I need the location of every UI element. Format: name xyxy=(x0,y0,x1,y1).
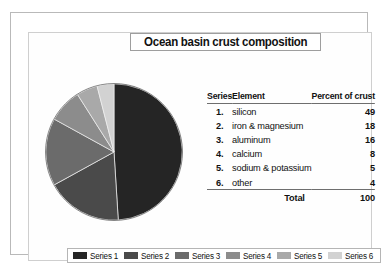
table-total-row: Total 100 xyxy=(207,190,375,205)
row-percent: 5 xyxy=(312,161,375,175)
legend-item[interactable]: Series 4 xyxy=(226,251,273,261)
column-header-series: Series xyxy=(207,91,232,104)
table-row: 3.aluminum16 xyxy=(207,132,375,146)
pie-chart xyxy=(45,83,183,221)
row-percent: 16 xyxy=(312,132,375,146)
data-table: Series Element Percent of crust 1.silico… xyxy=(207,91,357,205)
legend-item[interactable]: Series 2 xyxy=(124,251,171,261)
row-element: calcium xyxy=(232,147,311,161)
legend-label: Series 1 xyxy=(90,251,118,261)
legend-label: Series 5 xyxy=(294,251,322,261)
row-index: 5. xyxy=(207,161,232,175)
legend-swatch-icon xyxy=(328,252,342,259)
row-percent: 8 xyxy=(312,147,375,161)
table-row: 5.sodium & potassium5 xyxy=(207,161,375,175)
table-header-row: Series Element Percent of crust xyxy=(207,91,375,104)
legend-item[interactable]: Series 1 xyxy=(73,251,120,261)
chart-legend: Series 1Series 2Series 3Series 4Series 5… xyxy=(67,248,381,263)
row-index: 3. xyxy=(207,132,232,146)
pie-chart-svg xyxy=(45,83,183,221)
row-element: silicon xyxy=(232,104,311,119)
row-index: 2. xyxy=(207,118,232,132)
row-percent: 4 xyxy=(312,175,375,190)
legend-swatch-icon xyxy=(277,252,291,259)
total-value: 100 xyxy=(312,190,375,205)
page-frame: Ocean basin crust composition Series Ele… xyxy=(10,12,368,255)
table-row: 2.iron & magnesium18 xyxy=(207,118,375,132)
row-index: 1. xyxy=(207,104,232,119)
row-element: other xyxy=(232,175,311,190)
table-row: 1.silicon49 xyxy=(207,104,375,119)
row-percent: 18 xyxy=(312,118,375,132)
row-element: aluminum xyxy=(232,132,311,146)
row-percent: 49 xyxy=(312,104,375,119)
legend-swatch-icon xyxy=(226,252,240,259)
table-row: 6.other4 xyxy=(207,175,375,190)
page-title: Ocean basin crust composition xyxy=(144,35,307,49)
row-element: sodium & potassium xyxy=(232,161,311,175)
legend-item[interactable]: Series 5 xyxy=(277,251,324,261)
row-element: iron & magnesium xyxy=(232,118,311,132)
legend-swatch-icon xyxy=(175,252,189,259)
legend-label: Series 6 xyxy=(345,251,373,261)
legend-item[interactable]: Series 6 xyxy=(328,251,375,261)
row-index: 4. xyxy=(207,147,232,161)
column-header-element: Element xyxy=(232,91,311,104)
total-spacer xyxy=(207,190,232,205)
pie-slice[interactable] xyxy=(114,84,182,220)
chart-title-box: Ocean basin crust composition xyxy=(130,33,321,51)
legend-label: Series 3 xyxy=(192,251,220,261)
legend-item[interactable]: Series 3 xyxy=(175,251,222,261)
legend-swatch-icon xyxy=(73,252,87,259)
total-label: Total xyxy=(232,190,311,205)
table-row: 4.calcium8 xyxy=(207,147,375,161)
column-header-percent: Percent of crust xyxy=(312,91,375,104)
row-index: 6. xyxy=(207,175,232,190)
legend-swatch-icon xyxy=(124,252,138,259)
legend-label: Series 4 xyxy=(243,251,271,261)
legend-label: Series 2 xyxy=(141,251,169,261)
